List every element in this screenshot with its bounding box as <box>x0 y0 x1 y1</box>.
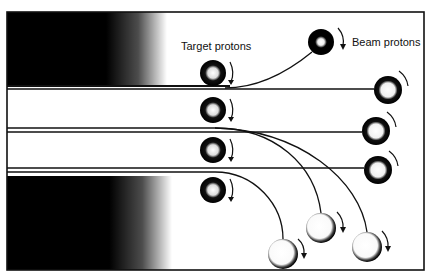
target-protons-label: Target protons <box>181 40 251 52</box>
target-material-top <box>7 12 167 86</box>
beam-protons <box>268 29 402 269</box>
beam-lines <box>7 86 374 172</box>
scattered-trajectories <box>215 52 367 239</box>
beam-protons-label: Beam protons <box>352 36 420 48</box>
target-material-bottom <box>7 176 172 270</box>
